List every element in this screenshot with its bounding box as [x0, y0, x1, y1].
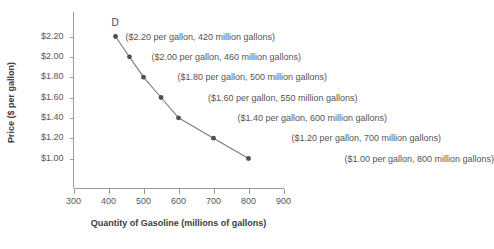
data-point-annotation: ($2.00 per gallon, 460 million gallons): [152, 53, 302, 62]
data-point: [246, 156, 251, 161]
y-axis-title: Price ($ per gallon): [7, 48, 16, 158]
data-point-annotation: ($1.60 per gallon, 550 million gallons): [208, 94, 358, 103]
data-point-annotation: ($1.00 per gallon, 800 million gallons): [345, 155, 494, 164]
x-axis-title: Quantity of Gasoline (millions of gallon…: [73, 219, 284, 228]
data-point-annotation: ($1.80 per gallon, 500 million gallons): [178, 73, 328, 82]
data-point: [211, 136, 216, 141]
data-point-annotation: ($1.20 per gallon, 700 million gallons): [292, 134, 442, 143]
data-point: [127, 54, 132, 59]
x-tick-label: 300: [54, 197, 94, 206]
x-tick-label: 900: [264, 197, 304, 206]
x-tick-label: 500: [124, 197, 164, 206]
x-tick-label: 400: [89, 197, 129, 206]
data-point: [176, 115, 181, 120]
data-point-annotation: ($2.20 per gallon, 420 million gallons): [126, 33, 276, 42]
data-point: [159, 95, 164, 100]
y-tick-marks: [70, 37, 74, 159]
x-tick-label: 700: [194, 197, 234, 206]
x-tick-label: 600: [159, 197, 199, 206]
data-point-annotation: ($1.40 per gallon, 600 million gallons): [238, 114, 388, 123]
data-point: [113, 34, 118, 39]
y-tick-label: $2.20: [0, 32, 64, 41]
curve-label-d: D: [112, 18, 119, 28]
data-point: [141, 75, 146, 80]
x-tick-label: 800: [229, 197, 269, 206]
x-tick-marks: [74, 189, 284, 194]
